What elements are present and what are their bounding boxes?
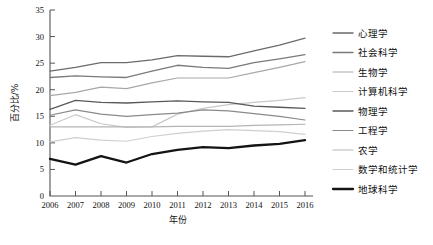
legend-label-6[interactable]: 农学 [358, 145, 378, 156]
x-tick-label: 2008 [93, 200, 110, 210]
x-axis-title: 年份 [169, 214, 187, 225]
y-tick-label: 15 [36, 111, 45, 121]
legend-label-3[interactable]: 计算机科学 [358, 86, 408, 97]
x-tick-label: 2009 [118, 200, 135, 210]
series-line-0 [50, 38, 305, 71]
series-line-5 [50, 110, 305, 120]
x-tick-label: 2007 [67, 200, 84, 210]
x-tick-label: 2012 [195, 200, 212, 210]
y-tick-label: 35 [36, 5, 45, 15]
series-line-2 [50, 62, 305, 96]
legend-label-2[interactable]: 生物学 [358, 67, 388, 78]
legend-label-8[interactable]: 地球科学 [358, 184, 398, 195]
y-axis-title: 百分比/% [9, 83, 20, 122]
x-tick-label: 2006 [42, 200, 59, 210]
y-tick-label: 20 [36, 85, 45, 95]
series-line-7 [50, 130, 305, 142]
legend-label-7[interactable]: 数学和统计学 [358, 164, 418, 175]
chart-axes [50, 10, 313, 196]
series-line-8 [50, 140, 305, 164]
legend-label-0[interactable]: 心理学 [358, 28, 388, 39]
y-tick-label: 10 [36, 138, 45, 148]
x-tick-label: 2015 [271, 200, 288, 210]
x-tick-label: 2013 [220, 200, 237, 210]
line-chart: 0510152025303520062007200820092010201120… [0, 0, 433, 245]
series-line-6 [50, 124, 305, 127]
y-tick-label: 25 [36, 58, 45, 68]
legend-label-4[interactable]: 物理学 [358, 106, 388, 117]
x-tick-label: 2014 [246, 200, 264, 210]
y-tick-label: 5 [40, 164, 44, 174]
x-tick-label: 2010 [144, 200, 161, 210]
x-tick-label: 2011 [169, 200, 186, 210]
y-tick-label: 30 [36, 32, 45, 42]
x-tick-label: 2016 [297, 200, 314, 210]
series-line-1 [50, 55, 305, 78]
chart-canvas: 0510152025303520062007200820092010201120… [0, 0, 433, 245]
legend-label-5[interactable]: 工程学 [358, 125, 388, 136]
legend-label-1[interactable]: 社会科学 [358, 47, 398, 58]
